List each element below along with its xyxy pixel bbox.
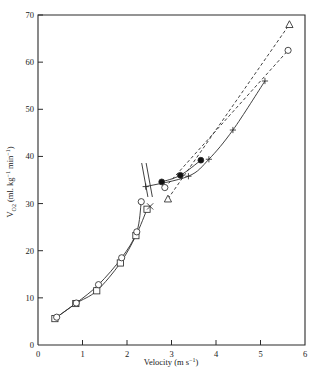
marker-filled-circle xyxy=(159,179,165,185)
x-tick-label: 5 xyxy=(258,349,262,359)
series-markers-0 xyxy=(52,206,150,322)
x-tick-label: 1 xyxy=(80,349,84,359)
marker-plus xyxy=(185,173,191,179)
x-axis-title: Velocity (m s−1) xyxy=(144,357,199,367)
marker-filled-circle xyxy=(178,172,184,178)
marker-open-circle xyxy=(95,282,101,288)
figure-container: 0123456 010203040506070 Velocity (m s−1)… xyxy=(0,0,322,380)
series-markers-1 xyxy=(54,199,145,321)
marker-open-circle xyxy=(285,47,291,53)
series-lines xyxy=(55,24,290,318)
marker-open-circle xyxy=(73,300,79,306)
vo2-velocity-chart: 0123456 010203040506070 Velocity (m s−1)… xyxy=(0,0,322,380)
marker-open-circle xyxy=(138,199,144,205)
y-axis-ticks xyxy=(38,15,43,298)
series-line-4 xyxy=(168,24,289,198)
svg-text:VO2 (ml. kg−1 min−1): VO2 (ml. kg−1 min−1) xyxy=(5,146,17,217)
marker-open-circle xyxy=(119,255,125,261)
y-axis-tick-labels: 010203040506070 xyxy=(26,10,35,350)
plot-frame xyxy=(38,15,305,345)
marker-plus xyxy=(230,127,236,133)
marker-open-square xyxy=(94,288,100,294)
marker-filled-circle xyxy=(198,157,204,163)
marker-open-circle xyxy=(162,184,168,190)
marker-plus xyxy=(143,184,149,190)
y-tick-label: 30 xyxy=(26,199,35,209)
marker-open-triangle xyxy=(286,21,293,28)
y-tick-label: 10 xyxy=(26,293,35,303)
series-line-1 xyxy=(57,202,142,317)
reference-lines xyxy=(142,163,153,197)
series-markers-5 xyxy=(143,78,268,190)
y-tick-label: 0 xyxy=(30,340,34,350)
y-tick-label: 40 xyxy=(26,151,35,161)
marker-open-triangle xyxy=(164,195,171,202)
series-markers xyxy=(52,21,293,322)
series-line-5 xyxy=(146,81,265,187)
series-line-0 xyxy=(55,209,147,318)
x-tick-label: 6 xyxy=(303,349,307,359)
y-axis-title: VO2 (ml. kg−1 min−1) xyxy=(5,146,17,217)
x-tick-label: 2 xyxy=(125,349,129,359)
x-tick-label: 4 xyxy=(214,349,219,359)
x-tick-label: 0 xyxy=(36,349,40,359)
x-axis-ticks xyxy=(83,340,261,345)
marker-open-circle xyxy=(134,229,140,235)
y-tick-label: 50 xyxy=(26,104,35,114)
marker-open-circle xyxy=(54,314,60,320)
svg-text:Velocity (m s−1): Velocity (m s−1) xyxy=(144,357,199,367)
series-line-3 xyxy=(165,50,288,187)
y-tick-label: 60 xyxy=(26,57,35,67)
y-tick-label: 70 xyxy=(26,10,35,20)
y-tick-label: 20 xyxy=(26,246,35,256)
